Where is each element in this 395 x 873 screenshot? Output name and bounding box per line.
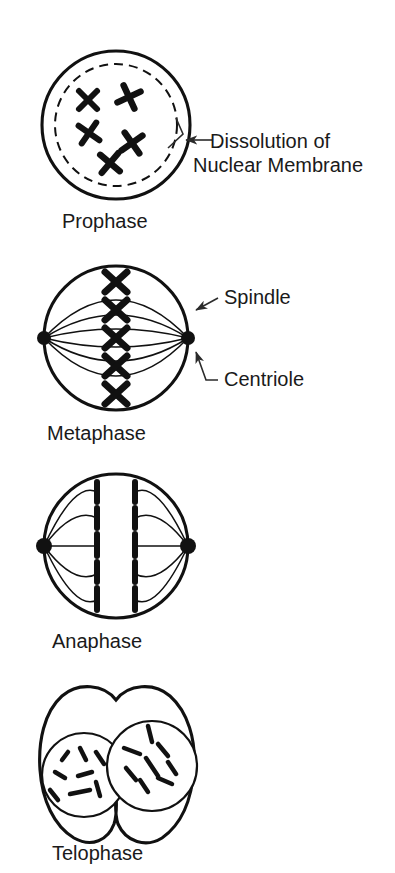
centriole-dot xyxy=(36,538,52,554)
mitosis-figure-canvas: Dissolution of Nuclear Membrane Prophase xyxy=(0,0,395,873)
phase-group-telophase: Telophase xyxy=(40,687,197,864)
annotation-spindle: Spindle xyxy=(224,286,291,308)
cell-membrane-outline xyxy=(42,51,190,199)
phase-caption-anaphase: Anaphase xyxy=(52,630,142,652)
mitosis-diagram: Dissolution of Nuclear Membrane Prophase xyxy=(0,0,395,873)
phase-group-prophase: Dissolution of Nuclear Membrane Prophase xyxy=(42,51,363,232)
phase-caption-prophase: Prophase xyxy=(62,210,148,232)
annotation-centriole: Centriole xyxy=(224,368,304,390)
phase-group-metaphase: Spindle Centriole Metaphase xyxy=(37,266,304,444)
centriole-dot xyxy=(181,331,195,345)
leader-line-spindle xyxy=(196,298,218,310)
centriole-dot xyxy=(37,331,51,345)
annotation-dissolution-line1: Dissolution of xyxy=(210,130,331,152)
leader-line-centriole xyxy=(196,352,218,380)
phase-caption-telophase: Telophase xyxy=(52,842,143,864)
phase-caption-metaphase: Metaphase xyxy=(47,422,146,444)
centriole-dot xyxy=(180,538,196,554)
annotation-dissolution-line2: Nuclear Membrane xyxy=(193,154,363,176)
phase-group-anaphase: Anaphase xyxy=(36,474,196,652)
